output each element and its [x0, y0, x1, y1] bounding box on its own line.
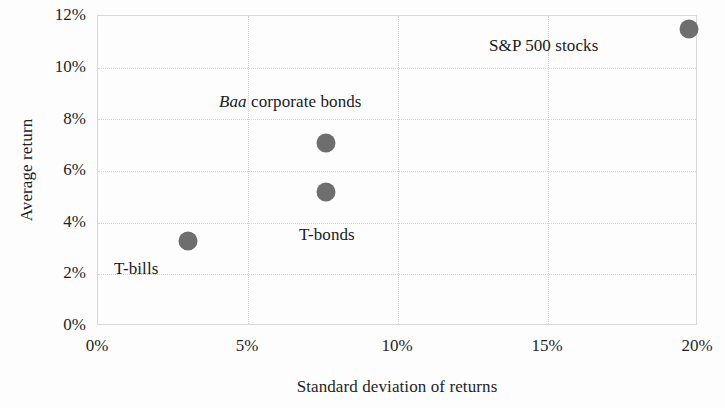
- y-tick-label-8: 8%: [24, 109, 86, 129]
- data-label-sp500-stocks: S&P 500 stocks: [489, 36, 598, 56]
- data-point-sp500-stocks[interactable]: [680, 19, 699, 38]
- plot-area: [97, 15, 697, 325]
- gridline-horizontal-4: [98, 223, 696, 224]
- data-point-t-bills[interactable]: [179, 231, 198, 250]
- x-tick-label-15: 15%: [512, 336, 582, 356]
- scatter-chart-figure: Average return 12% 10% 8% 6% 4% 2% 0% 0%…: [0, 0, 725, 408]
- gridline-horizontal-8: [98, 119, 696, 120]
- gridline-vertical-5: [248, 16, 249, 324]
- data-point-t-bonds[interactable]: [317, 182, 336, 201]
- x-tick-label-20: 20%: [662, 336, 725, 356]
- y-tick-label-4: 4%: [24, 212, 86, 232]
- gridline-horizontal-2: [98, 274, 696, 275]
- data-point-baa-corporate-bonds[interactable]: [317, 133, 336, 152]
- y-tick-label-2: 2%: [24, 263, 86, 283]
- x-tick-label-10: 10%: [362, 336, 432, 356]
- data-label-t-bonds: T-bonds: [299, 225, 355, 245]
- y-tick-label-12: 12%: [24, 5, 86, 25]
- gridline-vertical-15: [548, 16, 549, 324]
- x-axis-title: Standard deviation of returns: [97, 377, 697, 397]
- data-label-baa-rest: corporate bonds: [247, 92, 362, 111]
- gridline-horizontal-10: [98, 68, 696, 69]
- y-tick-label-0: 0%: [24, 315, 86, 335]
- x-tick-label-0: 0%: [62, 336, 132, 356]
- y-tick-label-6: 6%: [24, 160, 86, 180]
- data-label-t-bills: T-bills: [114, 259, 158, 279]
- data-label-baa-italic: Baa: [219, 92, 247, 111]
- gridline-vertical-10: [398, 16, 399, 324]
- x-tick-label-5: 5%: [212, 336, 282, 356]
- data-label-baa-corporate-bonds: Baa corporate bonds: [219, 92, 362, 112]
- y-tick-label-10: 10%: [24, 57, 86, 77]
- gridline-horizontal-6: [98, 171, 696, 172]
